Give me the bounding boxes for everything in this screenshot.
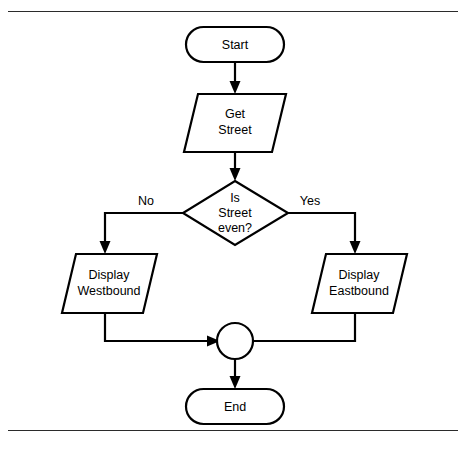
edge-merge-to-end xyxy=(230,359,241,389)
edge-start-to-get-street xyxy=(230,62,241,94)
edge-eastbound-to-merge xyxy=(240,313,355,347)
display-eastbound-label-line-1: Display xyxy=(339,268,381,282)
decision-label-line-3: even? xyxy=(218,221,252,235)
edge-decision-no: No xyxy=(100,194,184,254)
display-westbound-label-line-2: Westbound xyxy=(77,284,140,298)
flowchart-canvas: No Yes Start xyxy=(0,0,465,450)
node-end[interactable]: End xyxy=(186,389,284,424)
display-eastbound-label-line-2: Eastbound xyxy=(329,284,389,298)
get-street-label-line-1: Get xyxy=(225,107,246,121)
node-get-street[interactable]: Get Street xyxy=(184,94,286,152)
decision-label-line-1: Is xyxy=(230,191,240,205)
edge-label-yes: Yes xyxy=(300,194,320,208)
get-street-label-line-2: Street xyxy=(218,123,252,137)
edge-get-street-to-decision xyxy=(230,152,241,181)
start-label: Start xyxy=(222,38,249,52)
end-label: End xyxy=(224,400,246,414)
edge-westbound-to-merge xyxy=(105,313,220,347)
display-westbound-label-line-1: Display xyxy=(89,268,131,282)
node-is-street-even[interactable]: Is Street even? xyxy=(183,181,288,245)
edge-decision-yes: Yes xyxy=(288,194,361,254)
edge-label-no: No xyxy=(138,194,154,208)
node-merge-connector[interactable] xyxy=(217,323,253,359)
node-display-westbound[interactable]: Display Westbound xyxy=(62,254,157,313)
node-display-eastbound[interactable]: Display Eastbound xyxy=(312,254,407,313)
merge-circle-shape xyxy=(217,323,253,359)
node-start[interactable]: Start xyxy=(186,27,284,62)
decision-label-line-2: Street xyxy=(218,206,252,220)
flowchart-figure: No Yes Start xyxy=(0,0,465,450)
